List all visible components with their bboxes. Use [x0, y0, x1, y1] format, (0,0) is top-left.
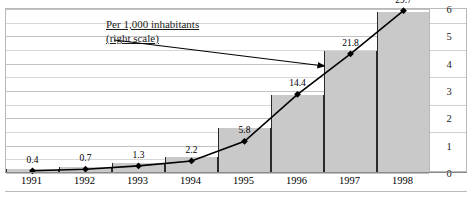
x-tick-1995: 1995	[233, 175, 254, 186]
y-tick-6: 6	[430, 4, 468, 15]
data-label-1997: 21.8	[342, 38, 359, 48]
chart-container: 0.40.71.32.25.814.421.829.7 Per 1,000 in…	[0, 0, 473, 199]
x-tick-1991: 1991	[21, 175, 42, 186]
data-label-1996: 14.4	[289, 78, 306, 88]
data-label-1993: 1.3	[133, 150, 145, 160]
right-axis: 0123456	[429, 8, 467, 172]
x-tick-1998: 1998	[392, 175, 413, 186]
x-tick-1993: 1993	[127, 175, 148, 186]
annotation-line-2: (right scale)	[106, 31, 199, 45]
y-tick-3: 3	[430, 86, 468, 97]
annotation-line-1: Per 1,000 inhabitants	[106, 17, 199, 31]
bar-1997	[324, 51, 377, 172]
x-tick-1994: 1994	[180, 175, 201, 186]
axis-gridline	[430, 23, 466, 24]
data-label-1991: 0.4	[27, 155, 39, 165]
bar-1998	[377, 12, 430, 172]
axis-gridline	[430, 77, 466, 78]
axis-gridline	[430, 50, 466, 51]
data-label-1995: 5.8	[239, 125, 251, 135]
x-tick-1996: 1996	[286, 175, 307, 186]
bar-1994	[165, 157, 218, 172]
y-tick-4: 4	[430, 58, 468, 69]
bar-1993	[112, 163, 165, 172]
y-tick-1: 1	[430, 140, 468, 151]
plot-area: 0.40.71.32.25.814.421.829.7 Per 1,000 in…	[5, 8, 429, 172]
data-label-1992: 0.7	[80, 153, 92, 163]
axis-gridline	[430, 105, 466, 106]
axis-gridline	[430, 132, 466, 133]
x-tick-1997: 1997	[339, 175, 360, 186]
bar-1996	[271, 95, 324, 172]
x-axis-labels: 19911992199319941995199619971998	[5, 172, 467, 192]
y-tick-2: 2	[430, 113, 468, 124]
bar-series	[6, 9, 429, 172]
data-label-1998: 29.7	[395, 0, 412, 5]
annotation-right-scale: Per 1,000 inhabitants (right scale)	[106, 17, 199, 45]
x-tick-1992: 1992	[74, 175, 95, 186]
data-label-1994: 2.2	[186, 145, 198, 155]
y-tick-5: 5	[430, 31, 468, 42]
